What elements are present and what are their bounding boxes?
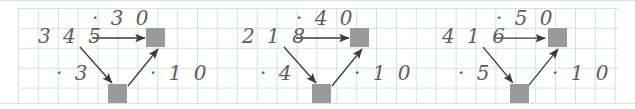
multiplication-split-panel-3: 4 1 6 · 5 0 · 5 · 1 0 xyxy=(420,0,632,109)
result-box-bottom xyxy=(108,84,127,103)
multiplication-split-panel-1: 3 4 5 · 3 0 · 3 · 1 0 xyxy=(0,0,212,109)
result-box-top xyxy=(146,28,165,47)
result-box-top xyxy=(548,28,567,47)
left-multiplier-label: · 5 xyxy=(458,64,492,83)
worksheet-canvas: 3 4 5 · 3 0 · 3 · 1 0 2 1 8 · 4 0 · 4 · … xyxy=(0,0,635,109)
left-multiplier-label: · 3 xyxy=(56,64,90,83)
multiplication-split-panel-2: 2 1 8 · 4 0 · 4 · 1 0 xyxy=(210,0,422,109)
right-multiplier-label: · 1 0 xyxy=(354,64,414,83)
result-box-bottom xyxy=(312,84,331,103)
top-multiplier-label: · 4 0 xyxy=(296,9,356,28)
left-multiplier-label: · 4 xyxy=(260,64,294,83)
result-box-top xyxy=(350,28,369,47)
result-box-bottom xyxy=(510,84,529,103)
top-multiplier-label: · 5 0 xyxy=(496,9,556,28)
right-multiplier-label: · 1 0 xyxy=(150,64,210,83)
right-multiplier-label: · 1 0 xyxy=(552,64,612,83)
top-multiplier-label: · 3 0 xyxy=(92,9,152,28)
